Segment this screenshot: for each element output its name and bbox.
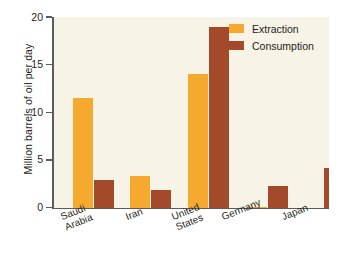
legend-label-extraction: Extraction bbox=[252, 23, 299, 35]
bar-consumption-4 bbox=[324, 168, 329, 208]
legend-swatch-extraction bbox=[229, 24, 244, 33]
bar-consumption-2 bbox=[209, 27, 229, 208]
legend-swatch-consumption bbox=[229, 41, 244, 50]
y-tick-label: 5 bbox=[3, 154, 43, 165]
bar-extraction-1 bbox=[130, 176, 150, 207]
y-tick-label: 10 bbox=[3, 107, 43, 118]
legend-item-extraction: Extraction bbox=[229, 21, 314, 36]
bar-consumption-3 bbox=[268, 186, 288, 208]
y-axis-line bbox=[52, 17, 54, 209]
bar-chart-figure: Million barrels of oil per day 05101520 … bbox=[0, 0, 339, 262]
y-tick-label: 15 bbox=[3, 59, 43, 70]
legend-label-consumption: Consumption bbox=[252, 40, 314, 52]
bar-extraction-2 bbox=[188, 74, 208, 207]
bar-extraction-0 bbox=[73, 98, 93, 208]
bar-consumption-0 bbox=[94, 180, 114, 208]
bar-consumption-1 bbox=[151, 190, 171, 207]
legend-item-consumption: Consumption bbox=[229, 38, 314, 53]
chart-legend: ExtractionConsumption bbox=[229, 21, 314, 55]
y-tick-label: 0 bbox=[3, 202, 43, 213]
y-tick-label: 20 bbox=[3, 12, 43, 23]
